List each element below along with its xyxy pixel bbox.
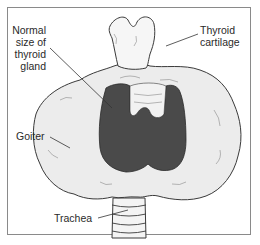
label-line: Normal: [10, 24, 46, 36]
label-thyroid-cartilage: Thyroid cartilage: [200, 24, 240, 48]
label-trachea: Trachea: [54, 212, 92, 224]
leader-line-thyroid-cartilage: [166, 34, 198, 46]
label-normal-size-of-thyroid-gland: Normal size of thyroid gland: [10, 24, 46, 72]
trachea: [112, 198, 146, 238]
label-line: Thyroid: [200, 24, 240, 36]
label-line: thyroid: [10, 48, 46, 60]
label-line: cartilage: [200, 36, 240, 48]
label-goiter: Goiter: [16, 130, 45, 142]
label-line: size of: [10, 36, 46, 48]
normal-thyroid-gland: [99, 83, 186, 172]
thyroid-cartilage: [109, 17, 155, 69]
label-line: gland: [10, 60, 46, 72]
